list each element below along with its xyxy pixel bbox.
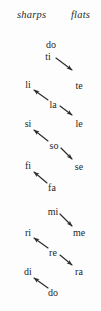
note-ra-flats: ra bbox=[75, 267, 83, 277]
note-ti-natural: ti bbox=[45, 52, 51, 62]
note-la-natural: la bbox=[49, 100, 56, 110]
arrow-re-to-ri bbox=[34, 238, 48, 248]
note-di-sharps: di bbox=[24, 267, 32, 277]
column-header-sharps: sharps bbox=[17, 9, 46, 20]
arrow-ti-to-te bbox=[56, 58, 72, 70]
arrow-re-to-ra bbox=[60, 255, 72, 265]
note-ri-sharps: ri bbox=[25, 228, 31, 238]
note-mi-natural: mi bbox=[48, 207, 59, 217]
arrow-la-to-le bbox=[60, 106, 72, 115]
note-re-natural: re bbox=[49, 248, 57, 258]
note-si-sharps: si bbox=[25, 119, 32, 129]
arrow-so-to-se bbox=[61, 148, 72, 159]
column-header-flats: flats bbox=[71, 9, 90, 20]
note-le-flats: le bbox=[75, 119, 82, 129]
note-fa-natural: fa bbox=[48, 183, 56, 193]
note-so-natural: so bbox=[50, 141, 59, 151]
note-se-flats: se bbox=[75, 162, 83, 172]
arrow-fa-to-fi bbox=[34, 172, 47, 183]
note-li-sharps: li bbox=[25, 80, 31, 90]
note-do-natural: do bbox=[48, 288, 58, 298]
arrow-la-to-li bbox=[34, 90, 48, 100]
arrow-mi-to-me bbox=[60, 214, 72, 226]
arrow-do-to-di bbox=[34, 278, 48, 288]
note-te-flats: te bbox=[75, 81, 82, 91]
solfege-chart: sharps flats dotilitelasilesofisefamirim… bbox=[0, 0, 101, 311]
note-fi-sharps: fi bbox=[25, 161, 31, 171]
note-me-flats: me bbox=[73, 228, 85, 238]
arrow-so-to-si bbox=[34, 130, 48, 141]
note-do-natural: do bbox=[46, 40, 56, 50]
